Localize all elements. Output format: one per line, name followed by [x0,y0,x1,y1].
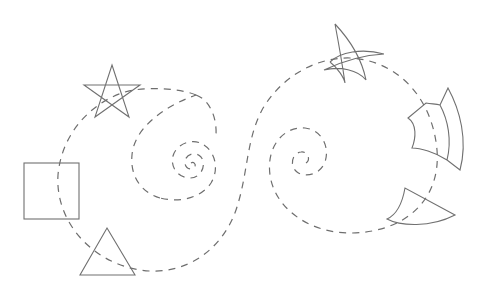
square-shape [24,163,79,219]
left-spiral-inner [172,142,204,178]
triangle-shape [80,228,135,275]
left-spiral-mid [132,95,196,198]
warped-star-shape [324,24,384,83]
left-loop-upper [196,95,216,135]
source-shapes [24,65,140,275]
diagram-canvas [0,0,484,295]
mapped-shapes [324,24,463,225]
warped-triangle-shape [387,188,455,225]
warped-square-shape [408,88,463,170]
s-curve [58,58,437,271]
double-spiral-path [58,58,437,271]
